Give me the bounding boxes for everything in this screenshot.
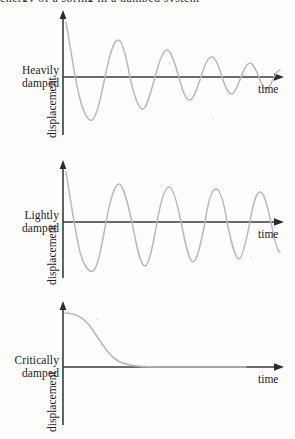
curve-critically-damped [65, 313, 246, 367]
damping-figure: energy of a spring in a damped system He… [0, 0, 295, 439]
x-axis-arrowhead [274, 218, 284, 225]
y-axis-label-heavily-damped: displacement [46, 77, 58, 138]
x-axis-label-lightly-damped: time [258, 228, 278, 240]
panel-critically-damped: Critically damped displacement time [0, 285, 295, 439]
x-axis-label-critically-damped: time [258, 373, 278, 385]
y-axis-arrowhead [60, 160, 67, 169]
curve-heavily-damped [66, 22, 280, 120]
y-axis-arrowhead [60, 301, 67, 310]
y-axis-arrowhead [60, 10, 67, 19]
axes [60, 301, 284, 425]
axes [60, 10, 284, 135]
y-axis-label-lightly-damped: displacement [46, 224, 58, 285]
y-axis-label-critically-damped: displacement [46, 371, 58, 432]
panel-heavily-damped: Heavily damped displacement time [0, 0, 295, 150]
panel-lightly-damped: Lightly damped displacement time [0, 140, 295, 290]
x-axis-label-heavily-damped: time [258, 83, 278, 95]
x-axis-arrowhead [274, 363, 284, 370]
